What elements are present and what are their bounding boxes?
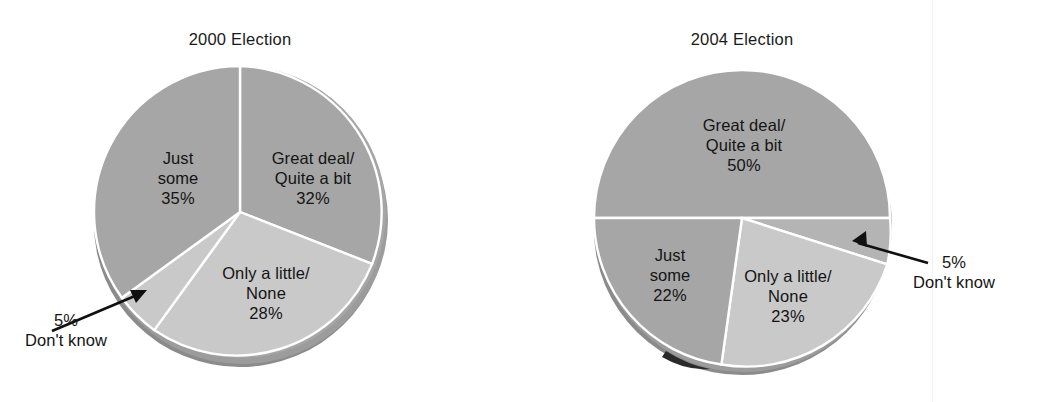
- slice-label-great-deal-2000: Great deal/ Quite a bit 32%: [248, 148, 378, 208]
- pie-chart-2000: 2000 Election: [0, 0, 470, 402]
- figure-canvas: 2000 Election: [0, 0, 1038, 402]
- callout-label-dont-know-2004: 5% Don't know: [874, 252, 1034, 292]
- slice-label-only-a-little-2000: Only a little/ None 28%: [196, 263, 336, 323]
- pie-graphic-2004: [470, 0, 1038, 402]
- slice-label-just-some-2000: Just some 35%: [128, 148, 228, 208]
- slice-label-just-some-2004: Just some 22%: [620, 245, 720, 305]
- slice-label-great-deal-2004: Great deal/ Quite a bit 50%: [674, 115, 814, 175]
- pie-chart-2004: 2004 Election Great: [470, 0, 1038, 402]
- callout-label-dont-know-2000: 5% Don't know: [0, 310, 132, 350]
- slice-label-only-a-little-2004: Only a little/ None 23%: [718, 266, 858, 326]
